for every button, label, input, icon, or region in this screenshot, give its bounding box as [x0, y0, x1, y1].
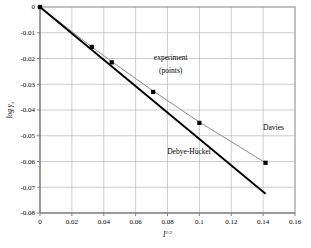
data-point-marker [263, 161, 267, 165]
y-tick-label: -0.06 [20, 158, 35, 166]
data-point-marker [38, 5, 42, 9]
experiment-annotation-line1: experiment [154, 53, 189, 62]
y-tick-label: -0.03 [20, 81, 35, 89]
data-point-marker [151, 90, 155, 94]
x-tick-label: 0.02 [66, 218, 79, 226]
chart-figure: 0-0.01-0.02-0.03-0.04-0.05-0.06-0.07-0.0… [0, 0, 311, 248]
y-tick-label: 0 [32, 3, 36, 11]
x-tick-label: 0.06 [130, 218, 143, 226]
y-tick-label: -0.04 [20, 106, 35, 114]
data-point-marker [110, 60, 114, 64]
data-point-marker [197, 121, 201, 125]
x-tick-label: 0.04 [98, 218, 111, 226]
y-tick-label: -0.01 [20, 29, 35, 37]
debye-huckel-annotation: Debye-Hückel [167, 147, 211, 156]
x-tick-label: 0.08 [161, 218, 174, 226]
x-axis-title: I1/2 [162, 230, 172, 239]
activity-coefficient-chart: 0-0.01-0.02-0.03-0.04-0.05-0.06-0.07-0.0… [0, 0, 311, 248]
y-tick-label: -0.05 [20, 132, 35, 140]
davies-annotation: Davies [263, 123, 284, 132]
x-tick-label: 0.12 [225, 218, 238, 226]
x-tick-label: 0.16 [289, 218, 302, 226]
x-tick-label: 0 [38, 218, 42, 226]
data-point-marker [90, 45, 94, 49]
y-axis-title: log γ± [5, 101, 15, 118]
y-tick-label: -0.08 [20, 209, 35, 217]
x-tick-label: 0.1 [195, 218, 204, 226]
experiment-annotation-line2: (points) [159, 66, 183, 75]
x-tick-label: 0.14 [257, 218, 270, 226]
y-tick-label: -0.02 [20, 55, 35, 63]
y-tick-label: -0.07 [20, 184, 35, 192]
